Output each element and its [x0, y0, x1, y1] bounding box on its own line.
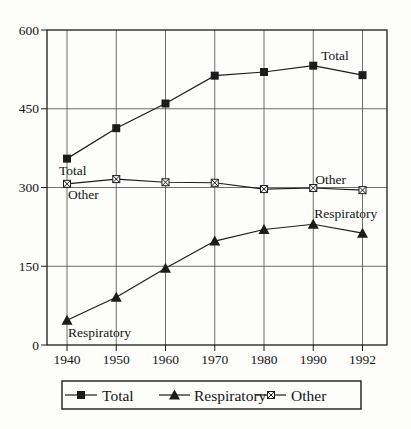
series-label: Other — [68, 187, 99, 202]
filled-triangle-marker — [62, 315, 73, 325]
y-tick-label: 150 — [19, 259, 40, 274]
x-tick-label: 1990 — [300, 352, 327, 367]
series-label: Respiratory — [68, 325, 131, 340]
x-tick-label: 1940 — [54, 352, 81, 367]
chart-figure: 0150300450600194019501960197019801990199… — [0, 0, 411, 429]
x-tick-label: 1992 — [349, 352, 376, 367]
crossed-square-marker — [359, 187, 366, 194]
series-annotations: TotalTotalOtherOtherRespiratoryRespirato… — [59, 48, 377, 341]
x-axis-labels: 1940195019601970198019901992 — [54, 352, 377, 367]
legend: TotalRespiratoryOther — [62, 381, 361, 409]
filled-square-marker — [211, 72, 219, 80]
filled-square-marker — [260, 68, 268, 76]
legend-label: Respiratory — [194, 387, 267, 404]
y-tick-label: 450 — [19, 101, 40, 116]
y-axis-labels: 0150300450600 — [19, 23, 40, 353]
filled-triangle-marker — [160, 263, 171, 273]
x-tick-label: 1950 — [103, 352, 130, 367]
x-tick-label: 1980 — [251, 352, 278, 367]
crossed-square-marker — [261, 186, 268, 193]
legend-label: Other — [291, 387, 327, 404]
series-label: Other — [315, 172, 346, 187]
series-label: Total — [321, 48, 349, 63]
legend-item-total: Total — [65, 387, 134, 404]
legend-item-respiratory: Respiratory — [159, 387, 267, 404]
chart-svg: 0150300450600194019501960197019801990199… — [0, 0, 411, 429]
series-label: Total — [59, 163, 87, 178]
y-tick-label: 600 — [19, 23, 40, 38]
legend-label: Total — [102, 387, 134, 404]
x-tick-label: 1970 — [201, 352, 228, 367]
crossed-square-marker — [162, 179, 169, 186]
legend-item-other: Other — [256, 387, 327, 404]
crossed-square-marker — [268, 392, 275, 399]
crossed-square-marker — [113, 176, 120, 183]
filled-square-marker — [63, 155, 71, 163]
filled-square-marker — [309, 62, 317, 70]
y-tick-label: 0 — [32, 338, 39, 353]
filled-square-marker — [162, 100, 170, 108]
filled-square-marker — [112, 124, 120, 132]
filled-triangle-marker — [111, 292, 122, 302]
x-tick-label: 1960 — [152, 352, 179, 367]
filled-square-marker — [359, 71, 367, 79]
series-label: Respiratory — [314, 206, 377, 221]
crossed-square-marker — [211, 179, 218, 186]
y-tick-label: 300 — [19, 180, 40, 195]
filled-square-marker — [77, 391, 85, 399]
